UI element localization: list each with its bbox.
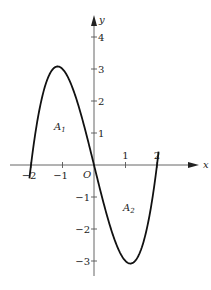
x-tick-label: −1 bbox=[53, 170, 68, 181]
x-tick-label: 1 bbox=[122, 150, 128, 161]
origin-label: O bbox=[83, 169, 91, 180]
y-tick-label: −3 bbox=[75, 256, 90, 267]
y-tick-label: −2 bbox=[75, 224, 90, 235]
y-axis-arrow-icon bbox=[91, 15, 97, 26]
region-label-a1: A1 bbox=[53, 121, 66, 134]
y-tick-label: 1 bbox=[98, 128, 104, 139]
y-tick-label: 2 bbox=[98, 96, 104, 107]
x-axis-arrow-icon bbox=[188, 162, 199, 168]
y-tick-label: 4 bbox=[98, 32, 104, 43]
x-axis bbox=[10, 162, 199, 168]
y-axis-label: y bbox=[98, 14, 105, 25]
y-axis bbox=[91, 15, 97, 276]
y-tick-label: 3 bbox=[98, 64, 104, 75]
x-axis-label: x bbox=[203, 159, 209, 170]
cubic-area-diagram: −2−112 4321−1−2−3 x y O A1 A2 bbox=[0, 0, 211, 290]
y-tick-label: −1 bbox=[75, 192, 90, 203]
region-label-a2: A2 bbox=[122, 202, 135, 215]
